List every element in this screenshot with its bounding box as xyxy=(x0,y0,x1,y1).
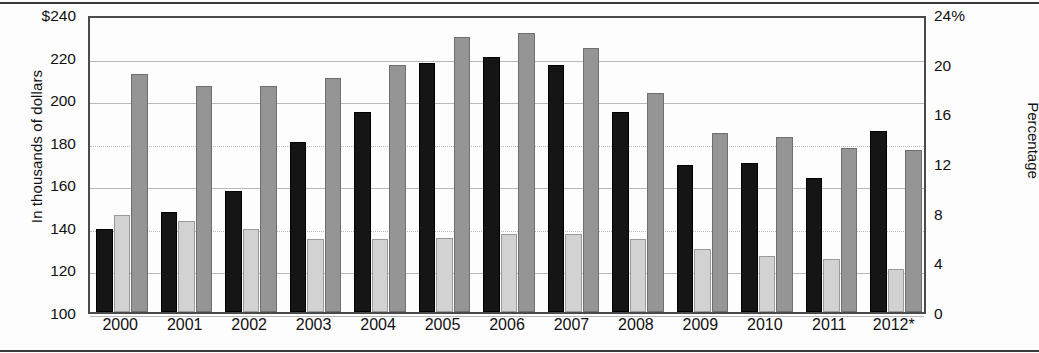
bar-black-series-2006 xyxy=(483,57,500,312)
bar-light-gray-series-2008 xyxy=(630,239,647,312)
x-axis-tick-labels: 2000200120022003200420052006200720082009… xyxy=(88,316,926,346)
right-tick-label: 20 xyxy=(934,57,951,75)
bar-black-series-2009 xyxy=(677,165,694,312)
right-tick-label: 16 xyxy=(934,106,951,124)
bar-black-series-2010 xyxy=(741,163,758,312)
bar-dark-gray-series-2006 xyxy=(518,33,535,312)
bar-black-series-2005 xyxy=(419,63,436,312)
bar-group xyxy=(799,18,863,312)
bar-black-series-2001 xyxy=(161,212,178,312)
right-tick-label: 12 xyxy=(934,156,951,174)
x-tick-label: 2006 xyxy=(475,316,539,334)
right-axis-title: Percentage xyxy=(1025,61,1039,221)
bar-dark-gray-series-2004 xyxy=(389,65,406,312)
bar-light-gray-series-2007 xyxy=(565,234,582,312)
bar-light-gray-series-2005 xyxy=(436,238,453,313)
bar-dark-gray-series-2008 xyxy=(647,93,664,312)
bar-dark-gray-series-2011 xyxy=(841,148,858,312)
bar-black-series-2011 xyxy=(806,178,823,312)
bar-dark-gray-series-2001 xyxy=(196,86,213,312)
right-tick-label: 8 xyxy=(934,206,943,224)
left-tick-label: 160 xyxy=(50,177,76,195)
bar-group xyxy=(606,18,670,312)
right-axis-tick-labels: 24%201612840 xyxy=(934,0,994,353)
x-tick-label: 2005 xyxy=(410,316,474,334)
left-tick-label: 220 xyxy=(50,50,76,68)
bar-group xyxy=(735,18,799,312)
plot-area xyxy=(88,16,926,314)
x-tick-label: 2008 xyxy=(604,316,668,334)
left-tick-label: $240 xyxy=(42,7,76,25)
bar-light-gray-series-2009 xyxy=(694,249,711,312)
bar-light-gray-series-2003 xyxy=(307,239,324,312)
bar-black-series-2002 xyxy=(225,191,242,312)
bar-group xyxy=(864,18,928,312)
bar-light-gray-series-2004 xyxy=(372,239,389,312)
left-tick-label: 100 xyxy=(50,305,76,323)
right-tick-label: 4 xyxy=(934,255,943,273)
bar-dark-gray-series-2007 xyxy=(583,48,600,312)
left-tick-label: 200 xyxy=(50,92,76,110)
bar-black-series-2008 xyxy=(612,112,629,312)
x-tick-label: 2003 xyxy=(281,316,345,334)
bar-group xyxy=(348,18,412,312)
left-tick-label: 140 xyxy=(50,220,76,238)
x-tick-label: 2007 xyxy=(539,316,603,334)
x-tick-label: 2011 xyxy=(797,316,861,334)
bar-group xyxy=(412,18,476,312)
x-tick-label: 2000 xyxy=(88,316,152,334)
x-tick-label: 2001 xyxy=(152,316,216,334)
x-tick-label: 2010 xyxy=(733,316,797,334)
bar-black-series-2012 xyxy=(870,131,887,312)
bar-light-gray-series-2012 xyxy=(888,269,905,312)
left-tick-label: 120 xyxy=(50,262,76,280)
bar-light-gray-series-2000 xyxy=(114,215,131,312)
left-tick-label: 180 xyxy=(50,135,76,153)
bar-group xyxy=(477,18,541,312)
bar-group xyxy=(283,18,347,312)
bar-group xyxy=(219,18,283,312)
bar-light-gray-series-2011 xyxy=(823,259,840,312)
left-axis-tick-labels: $240220200180160140120100 xyxy=(0,0,84,353)
bar-dark-gray-series-2003 xyxy=(325,78,342,312)
bar-black-series-2004 xyxy=(354,112,371,312)
x-tick-label: 2009 xyxy=(668,316,732,334)
bar-dark-gray-series-2000 xyxy=(131,74,148,312)
chart-root: In thousands of dollars Percentage $2402… xyxy=(0,0,1039,353)
bar-dark-gray-series-2010 xyxy=(776,137,793,312)
bar-light-gray-series-2010 xyxy=(759,256,776,312)
bar-dark-gray-series-2009 xyxy=(712,133,729,312)
bar-black-series-2007 xyxy=(548,65,565,312)
bar-black-series-2000 xyxy=(96,229,113,312)
bar-black-series-2003 xyxy=(290,142,307,312)
right-tick-label: 0 xyxy=(934,305,943,323)
bar-group xyxy=(541,18,605,312)
bar-group xyxy=(670,18,734,312)
bar-light-gray-series-2001 xyxy=(178,221,195,312)
bar-dark-gray-series-2002 xyxy=(260,86,277,312)
bar-dark-gray-series-2005 xyxy=(454,37,471,312)
x-tick-label: 2004 xyxy=(346,316,410,334)
x-tick-label: 2012* xyxy=(862,316,926,334)
bar-light-gray-series-2006 xyxy=(501,234,518,312)
bar-group xyxy=(154,18,218,312)
bar-group xyxy=(90,18,154,312)
right-tick-label: 24% xyxy=(934,7,965,25)
bottom-divider-rule xyxy=(0,350,1039,352)
bar-dark-gray-series-2012 xyxy=(905,150,922,312)
bar-light-gray-series-2002 xyxy=(243,229,260,312)
top-divider-rule xyxy=(0,2,1039,4)
x-tick-label: 2002 xyxy=(217,316,281,334)
